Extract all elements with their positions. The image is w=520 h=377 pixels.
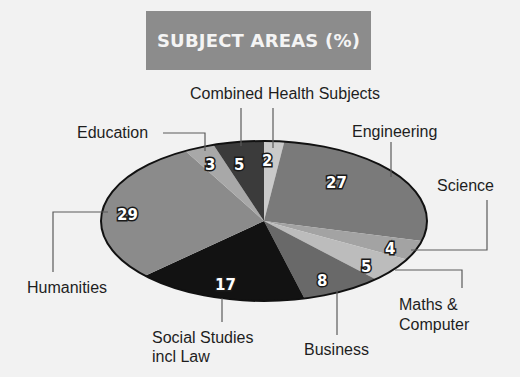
label-engineering: Engineering	[352, 122, 437, 141]
value-maths: 5	[361, 258, 371, 276]
label-combined: Combined	[190, 84, 263, 103]
value-humanities: 29	[117, 206, 138, 224]
value-education: 3	[205, 156, 215, 174]
leader-line-humanities	[53, 212, 108, 272]
label-maths-line2: Computer	[399, 315, 469, 334]
value-business: 8	[317, 272, 327, 290]
value-science: 4	[385, 240, 395, 258]
leader-line-maths	[395, 270, 462, 288]
label-science: Science	[437, 176, 494, 195]
label-humanities: Humanities	[27, 278, 107, 297]
value-health: 2	[262, 152, 272, 170]
value-social: 17	[215, 276, 236, 294]
label-business: Business	[304, 340, 369, 359]
label-education: Education	[77, 123, 148, 142]
label-health-subjects: Health Subjects	[268, 84, 380, 103]
label-social-line1: Social Studies	[152, 328, 253, 347]
label-social-line2: incl Law	[152, 347, 210, 366]
value-engineering: 27	[326, 174, 347, 192]
label-maths-line1: Maths &	[399, 295, 458, 314]
value-combined: 5	[234, 156, 244, 174]
